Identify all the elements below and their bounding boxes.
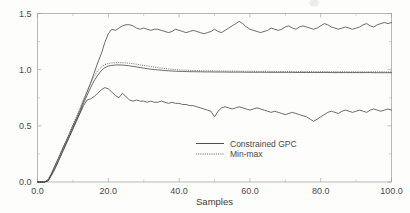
series-line — [38, 88, 392, 182]
chart-legend: Constrained GPC Min-max — [196, 139, 297, 160]
y-axis-tick-labels: 0.00.51.01.5 — [19, 9, 32, 188]
axis-ticks — [38, 14, 392, 183]
x-axis-label: Samples — [196, 196, 233, 207]
x-tick-label: 40.0 — [170, 186, 188, 196]
x-tick-label: 20.0 — [100, 186, 118, 196]
series-line — [38, 21, 392, 182]
data-series-group — [38, 21, 392, 182]
chart-figure: 0.020.040.060.080.0100.0 0.00.51.01.5 Sa… — [0, 0, 410, 213]
y-tick-label: 0.5 — [19, 121, 32, 131]
y-tick-label: 1.0 — [19, 65, 32, 75]
x-axis-tick-labels: 0.020.040.060.080.0100.0 — [31, 186, 403, 196]
x-tick-label: 60.0 — [241, 186, 259, 196]
series-line — [38, 63, 392, 182]
y-tick-label: 0.0 — [19, 177, 32, 187]
scan-artifact — [309, 0, 319, 7]
x-tick-label: 0.0 — [31, 186, 44, 196]
legend-label-constrained-gpc: Constrained GPC — [230, 139, 297, 149]
y-tick-label: 1.5 — [19, 9, 32, 19]
x-tick-label: 100.0 — [380, 186, 403, 196]
plot-frame — [38, 14, 392, 183]
legend-label-min-max: Min-max — [230, 149, 263, 159]
x-tick-label: 80.0 — [312, 186, 330, 196]
